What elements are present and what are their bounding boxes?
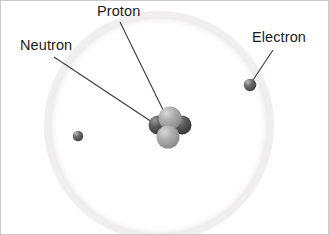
atom-structure-diagram: Proton Neutron Electron <box>0 0 329 235</box>
electron-sphere-left <box>73 131 83 141</box>
electron-label: Electron <box>252 30 306 45</box>
neutron-label: Neutron <box>20 38 72 53</box>
electron-sphere-right <box>244 79 256 91</box>
proton-sphere <box>157 126 180 149</box>
proton-label: Proton <box>97 4 140 19</box>
